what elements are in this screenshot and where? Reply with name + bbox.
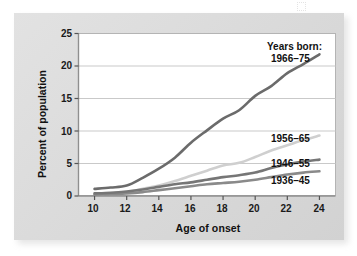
xtick-label-12: 12 [113,204,137,214]
ytick-label-15: 15 [46,94,72,104]
series-label-1936-45: 1936–45 [271,175,310,186]
ytick-label-25: 25 [46,29,72,39]
xtick-label-16: 16 [178,204,202,214]
series-label-1946-55: 1946–55 [271,158,310,169]
xtick-label-18: 18 [210,204,234,214]
series-label-1966-75: 1966–75 [271,53,310,64]
xtick-label-24: 24 [307,204,331,214]
y-axis-title: Percent of population [36,70,48,178]
figure-container: 25 20 15 10 5 0 10 12 14 16 18 20 22 24 … [0,0,357,256]
xtick-label-20: 20 [242,204,266,214]
ytick-label-20: 20 [46,61,72,71]
xtick-label-10: 10 [81,204,105,214]
series-label-1956-65: 1956–65 [271,133,310,144]
legend-title: Years born: [267,41,322,52]
ytick-label-0: 0 [46,191,72,201]
ytick-label-5: 5 [46,159,72,169]
xtick-label-22: 22 [274,204,298,214]
data-series-group [95,54,320,194]
xtick-label-14: 14 [145,204,169,214]
x-axis-title: Age of onset [138,222,278,234]
ytick-label-10: 10 [46,127,72,137]
